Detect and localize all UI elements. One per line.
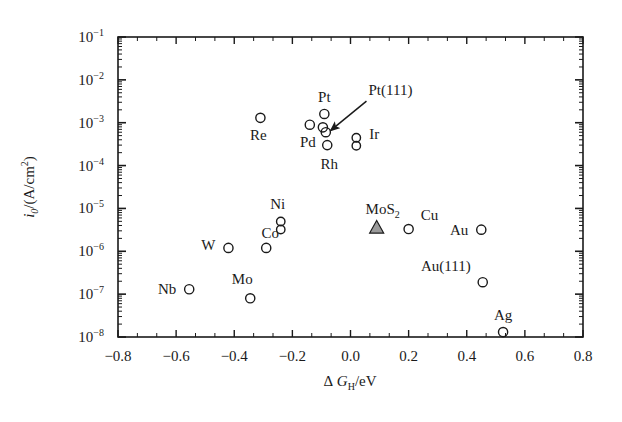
point-label-ni: Ni (270, 196, 285, 212)
her-volcano-scatter-figure: −0.8−0.6−0.4−0.20.00.20.40.60.8 10−110−2… (0, 0, 622, 422)
point-label-cu: Cu (421, 207, 439, 223)
point-label-mo: Mo (232, 271, 253, 287)
point-label-pt: Pt (318, 89, 331, 105)
point-label-co: Co (261, 225, 279, 241)
x-tick-label: 0.8 (574, 348, 593, 364)
x-tick-label: 0.6 (516, 348, 535, 364)
point-label-rh: Rh (320, 156, 338, 172)
x-tick-label: −0.8 (104, 348, 131, 364)
point-label-w: W (201, 237, 216, 253)
point-label-nb: Nb (158, 281, 176, 297)
point-label-ir: Ir (369, 126, 379, 142)
point-label-pd: Pd (300, 134, 316, 150)
x-axis-tick-labels: −0.8−0.6−0.4−0.20.00.20.40.60.8 (104, 348, 592, 364)
x-tick-label: −0.6 (163, 348, 191, 364)
point-label-pt-111: Pt(111) (368, 82, 412, 99)
scatter-plot-svg: −0.8−0.6−0.4−0.20.00.20.40.60.8 10−110−2… (0, 0, 622, 422)
x-tick-label: 0.4 (457, 348, 476, 364)
x-tick-label: −0.4 (221, 348, 249, 364)
point-label-au: Au (450, 222, 469, 238)
x-tick-label: 0.0 (341, 348, 360, 364)
point-label-re: Re (250, 127, 267, 143)
x-tick-label: −0.2 (279, 348, 306, 364)
point-label-ag: Ag (494, 307, 513, 323)
x-tick-label: 0.2 (399, 348, 418, 364)
point-label-au-111: Au(111) (421, 258, 471, 275)
